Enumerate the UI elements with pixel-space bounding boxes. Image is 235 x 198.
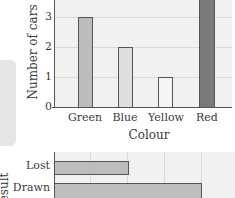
- bar-lost: [54, 161, 129, 175]
- result-axis-label: Result: [0, 173, 11, 198]
- bar-blue: [118, 47, 133, 108]
- x-axis: [52, 107, 232, 108]
- y-tick-2: 2: [40, 40, 52, 53]
- bar-yellow: [158, 77, 173, 108]
- x-category-red: Red: [185, 111, 229, 124]
- x-category-blue: Blue: [103, 111, 147, 124]
- y-axis: [54, 0, 55, 108]
- y-category-lost: Lost: [4, 159, 50, 172]
- y-tick-0: 0: [40, 100, 52, 113]
- result-chart-plot-area: [54, 152, 235, 198]
- x-axis-label: Colour: [119, 128, 179, 142]
- y-tick-1: 1: [40, 70, 52, 83]
- result-chart-axis: [54, 152, 55, 198]
- bar-green: [78, 17, 93, 108]
- bar-drawn: [54, 183, 202, 198]
- y-axis-label: Number of cars: [26, 4, 40, 99]
- bar-red: [199, 0, 215, 108]
- side-panel-decoration: [0, 60, 16, 146]
- cars-chart-plot-area: [54, 0, 232, 107]
- y-tick-3: 3: [40, 10, 52, 23]
- x-category-yellow: Yellow: [144, 111, 188, 124]
- x-category-green: Green: [63, 111, 107, 124]
